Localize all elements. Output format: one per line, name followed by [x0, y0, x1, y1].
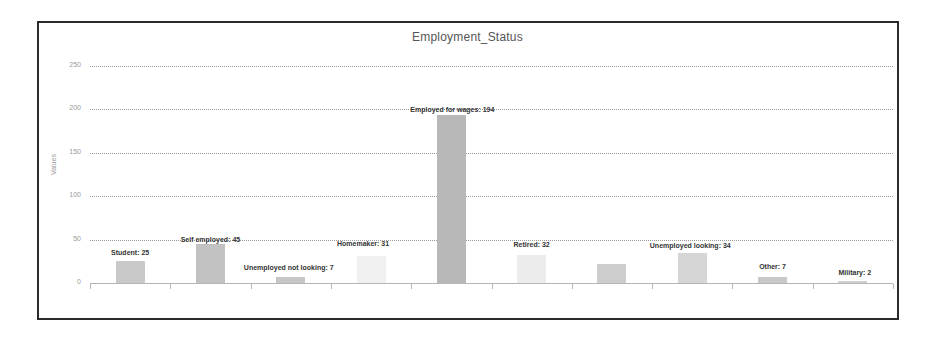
- x-tick: [652, 284, 653, 289]
- x-tick: [90, 284, 91, 289]
- y-axis-label: Values: [50, 154, 57, 175]
- bar[interactable]: [838, 281, 867, 283]
- bar[interactable]: [276, 277, 305, 283]
- y-tick-label: 200: [55, 104, 81, 111]
- y-tick-label: 150: [55, 148, 81, 155]
- bar[interactable]: [116, 261, 145, 283]
- x-tick: [492, 284, 493, 289]
- gridline: [90, 153, 893, 154]
- x-tick: [170, 284, 171, 289]
- x-tick: [572, 284, 573, 289]
- chart-title: Employment_Status: [0, 30, 935, 44]
- x-tick: [893, 284, 894, 289]
- data-label: Self employed: 45: [181, 236, 241, 243]
- y-tick-label: 100: [55, 191, 81, 198]
- data-label: Unemployed looking: 34: [650, 242, 731, 249]
- y-tick-label: 250: [55, 61, 81, 68]
- data-label: Unemployed not looking: 7: [244, 264, 334, 271]
- y-tick-label: 50: [55, 235, 81, 242]
- x-tick: [732, 284, 733, 289]
- bar[interactable]: [678, 253, 707, 283]
- bar[interactable]: [517, 255, 546, 283]
- x-tick: [251, 284, 252, 289]
- y-tick-label: 0: [55, 278, 81, 285]
- bar[interactable]: [758, 277, 787, 283]
- data-label: Other: 7: [759, 263, 786, 270]
- gridline: [90, 196, 893, 197]
- x-tick: [813, 284, 814, 289]
- x-tick: [331, 284, 332, 289]
- bar[interactable]: [357, 256, 386, 283]
- data-label: Military: 2: [839, 269, 872, 276]
- bar[interactable]: [437, 115, 466, 283]
- data-label: Employed for wages: 194: [410, 106, 494, 113]
- data-label: Student: 25: [111, 249, 149, 256]
- bar[interactable]: [597, 264, 626, 283]
- data-label: Retired: 32: [514, 241, 550, 248]
- data-label: Homemaker: 31: [337, 240, 389, 247]
- bar[interactable]: [196, 244, 225, 283]
- gridline: [90, 66, 893, 67]
- x-tick: [411, 284, 412, 289]
